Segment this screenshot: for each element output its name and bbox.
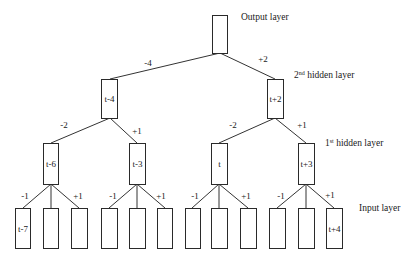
h1-node-1-label: t-3 <box>133 159 143 169</box>
input-node-8 <box>241 209 257 249</box>
edge-label-out-right: +2 <box>258 54 268 64</box>
hidden2-layer-label: 2nd hidden layer <box>294 70 355 80</box>
edge-label-h2l-right: +1 <box>132 126 142 136</box>
edge-label-h1-2-left: -1 <box>191 191 199 201</box>
input-node-6 <box>186 209 201 249</box>
input-node-2 <box>72 209 88 249</box>
hidden1-layer-label: 1st hidden layer <box>325 138 384 148</box>
input-layer-label: Input layer <box>359 203 401 213</box>
input-node-1 <box>44 209 59 249</box>
input-node-9 <box>270 209 286 249</box>
input-node-0-label: t-7 <box>18 224 28 234</box>
h2-node-left-label: t-4 <box>105 94 115 104</box>
edge-label-h1-3-right: +1 <box>325 190 335 200</box>
input-node-7 <box>212 209 228 249</box>
edge-label-h1-2-right: +1 <box>241 191 251 201</box>
h2-node-right-label: t+2 <box>269 94 281 104</box>
edge-label-h2r-left: -2 <box>229 120 237 130</box>
output-node <box>213 16 228 54</box>
input-node-11-label: t+4 <box>328 224 341 234</box>
h1-node-0-label: t-6 <box>46 159 56 169</box>
edge-h2r-left <box>219 118 275 143</box>
tree-diagram: t-4 t+2 t-6 t-3 t t+3 t-7 t+4 -4 +2 -2 +… <box>0 0 411 263</box>
edge-label-h1-0-right: +1 <box>73 191 83 201</box>
edge-label-h1-1-right: +1 <box>156 191 166 201</box>
edge-label-h1-0-left: -1 <box>21 191 29 201</box>
edge-label-h2l-left: -2 <box>60 120 68 130</box>
h1-node-3-label: t+3 <box>300 159 313 169</box>
input-node-5 <box>158 209 173 249</box>
edge-label-h1-1-left: -1 <box>109 191 117 201</box>
edge-out-left <box>110 53 220 79</box>
edge-label-out-left: -4 <box>144 58 152 68</box>
output-layer-label: Output layer <box>241 12 290 22</box>
edge-label-h1-3-left: -1 <box>277 191 285 201</box>
edge-label-h2r-right: +1 <box>297 120 307 130</box>
input-node-10 <box>299 209 315 249</box>
input-node-4 <box>130 209 146 249</box>
input-node-3 <box>102 209 118 249</box>
